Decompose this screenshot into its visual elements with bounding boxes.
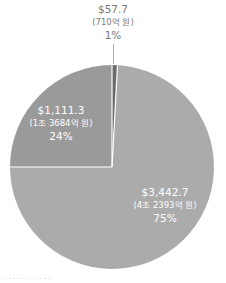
slice-percent: 24%: [18, 130, 104, 143]
footnote: · · · · · · · · · · ·: [4, 275, 51, 283]
slice-percent: 1%: [83, 29, 143, 42]
slice-sub-value: (710억 원): [83, 16, 143, 29]
slice-value: $3,442.7: [110, 186, 220, 199]
slice-label-1pct: $57.7 (710억 원) 1%: [83, 3, 143, 42]
slice-sub-value: (4조 2393억 원): [110, 199, 220, 212]
slice-value: $1,111.3: [18, 104, 104, 117]
slice-percent: 75%: [110, 212, 220, 225]
slice-label-75pct: $3,442.7 (4조 2393억 원) 75%: [110, 186, 220, 225]
slice-label-24pct: $1,111.3 (1조 3684억 원) 24%: [18, 104, 104, 143]
slice-sub-value: (1조 3684억 원): [18, 117, 104, 130]
slice-value: $57.7: [83, 3, 143, 16]
